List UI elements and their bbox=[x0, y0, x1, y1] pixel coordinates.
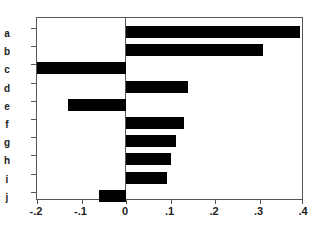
x-label: .4 bbox=[288, 205, 318, 217]
bar-g bbox=[126, 135, 176, 147]
plot-area bbox=[36, 17, 303, 200]
bar-e bbox=[68, 99, 126, 111]
x-label: -.2 bbox=[21, 205, 51, 217]
x-tick bbox=[215, 199, 216, 204]
x-tick bbox=[302, 199, 303, 204]
y-tick bbox=[31, 155, 37, 156]
bar-j bbox=[99, 190, 126, 202]
bar-b bbox=[126, 44, 263, 56]
y-label-j: j bbox=[0, 192, 14, 203]
y-tick bbox=[31, 137, 37, 138]
bar-d bbox=[126, 81, 188, 93]
y-tick bbox=[31, 46, 37, 47]
y-label-g: g bbox=[0, 137, 14, 148]
bar-h bbox=[126, 153, 171, 165]
y-label-a: a bbox=[0, 28, 14, 39]
x-tick bbox=[37, 199, 38, 204]
bar-c bbox=[37, 62, 126, 74]
x-label: .2 bbox=[199, 205, 229, 217]
x-tick bbox=[126, 199, 127, 204]
y-tick bbox=[31, 64, 37, 65]
y-label-i: i bbox=[0, 174, 14, 185]
y-tick bbox=[31, 83, 37, 84]
x-label: .1 bbox=[155, 205, 185, 217]
y-label-c: c bbox=[0, 64, 14, 75]
y-label-e: e bbox=[0, 101, 14, 112]
y-label-b: b bbox=[0, 46, 14, 57]
bar-i bbox=[126, 172, 167, 184]
y-label-f: f bbox=[0, 119, 14, 130]
x-tick bbox=[82, 199, 83, 204]
x-label: -.1 bbox=[66, 205, 96, 217]
x-label: 0 bbox=[110, 205, 140, 217]
horizontal-bar-chart: abcdefghij -.2-.10.1.2.3.4 bbox=[0, 0, 323, 231]
bar-a bbox=[126, 26, 300, 38]
y-label-h: h bbox=[0, 155, 14, 166]
y-tick bbox=[31, 192, 37, 193]
bar-f bbox=[126, 117, 184, 129]
y-label-d: d bbox=[0, 83, 14, 94]
x-tick bbox=[171, 199, 172, 204]
x-label: .3 bbox=[244, 205, 274, 217]
y-tick bbox=[31, 119, 37, 120]
y-tick bbox=[31, 28, 37, 29]
y-tick bbox=[31, 101, 37, 102]
x-tick bbox=[260, 199, 261, 204]
y-tick bbox=[31, 174, 37, 175]
